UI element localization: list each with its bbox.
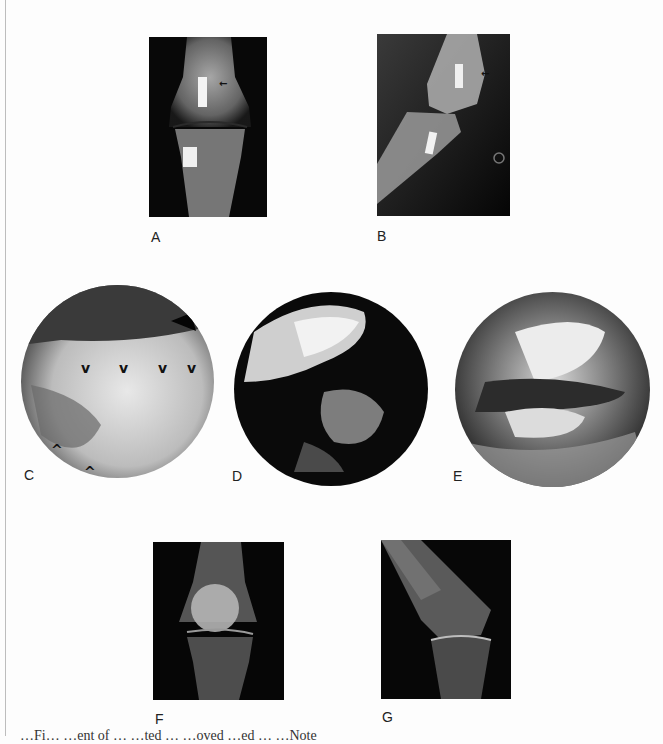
- arrowhead-marker: v: [119, 361, 128, 375]
- panel-e-image: [455, 292, 650, 487]
- arrowhead-marker: v: [158, 361, 167, 375]
- arrow-marker: ←: [481, 69, 489, 79]
- panel-label-d: D: [232, 469, 242, 483]
- panel-label-f: F: [155, 712, 164, 726]
- panel-label-c: C: [24, 468, 34, 482]
- panel-a-image: ←: [149, 37, 267, 217]
- panel-label-g: G: [382, 710, 393, 724]
- arrow-marker: ←: [219, 79, 227, 89]
- arrowhead-marker: v: [187, 361, 196, 375]
- page-margin-rule: [5, 0, 6, 736]
- arrowhead-marker: ^: [51, 443, 63, 457]
- panel-b-image: ←: [377, 34, 510, 216]
- figure-caption-fragment: …Fi… …ent of … …ted … …oved …ed … …Note: [20, 728, 660, 744]
- panel-c-image: v v v v ^ ^: [21, 285, 214, 478]
- arrowhead-marker: v: [81, 361, 90, 375]
- panel-d-image: [234, 292, 428, 486]
- panel-label-a: A: [151, 230, 160, 244]
- panel-label-e: E: [453, 469, 462, 483]
- arrowhead-marker: ^: [84, 465, 96, 478]
- panel-f-image: [153, 542, 284, 700]
- panel-g-image: [381, 540, 511, 699]
- panel-label-b: B: [377, 229, 386, 243]
